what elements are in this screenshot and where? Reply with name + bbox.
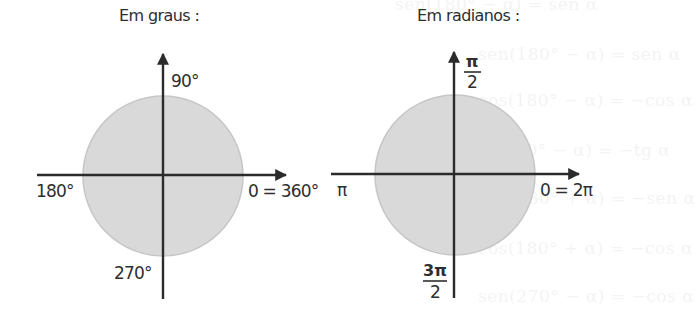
numerator: π — [466, 52, 479, 71]
label-270: 270° — [114, 263, 152, 283]
denominator: 2 — [467, 72, 477, 92]
label-90: 90° — [171, 71, 199, 91]
label-3pi-over-2: 3π 2 — [423, 261, 447, 302]
label-pi: π — [337, 180, 347, 200]
label-pi-over-2: π 2 — [464, 52, 481, 92]
numerator: 3π — [423, 261, 447, 280]
label-0-2pi: 0 = 2π — [540, 180, 593, 200]
radians-diagram: π 2 π 0 = 2π 3π 2 — [331, 52, 593, 302]
label-180: 180° — [36, 181, 74, 201]
denominator: 2 — [430, 282, 440, 302]
label-0-360: 0 = 360° — [248, 181, 318, 201]
degrees-diagram: 90° 180° 0 = 360° 270° — [36, 54, 318, 299]
